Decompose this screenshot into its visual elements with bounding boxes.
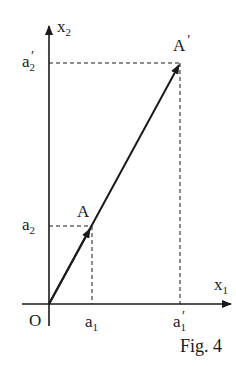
vector-OA [49,229,90,304]
x-tick-a1: a1 [85,313,98,330]
y-tick-a2-prime: a2′ [22,53,34,70]
y-axis-label: x2 [57,18,71,35]
origin-label: O [29,312,41,329]
y-tick-a2: a2 [22,216,35,233]
point-A-prime-label: A′ [173,37,190,54]
x-tick-a1-prime: a1′ [173,313,185,330]
x-axis-label: x1 [214,276,228,293]
point-A-label: A [77,203,89,220]
figure-caption: Fig. 4 [180,337,222,355]
